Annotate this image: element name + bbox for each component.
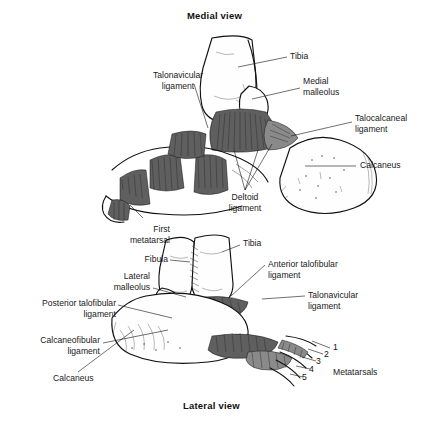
label-lateral-talonavicular-ligament: Talonavicular ligament <box>308 290 358 311</box>
leader-deltoid-b <box>245 150 258 190</box>
medial-view-caption: Medial view <box>187 10 242 21</box>
leader-mt-4 <box>296 366 310 369</box>
leader-mt-1 <box>312 341 330 348</box>
metatarsal-number-5: 5 <box>302 372 307 382</box>
label-medial-calcaneus: Calcaneus <box>360 160 401 171</box>
metatarsal-number-4: 4 <box>309 364 314 374</box>
medial-talonavicular-shape <box>168 131 206 159</box>
label-talocalcaneal-ligament: Talocalcaneal ligament <box>355 113 407 134</box>
label-lateral-malleolus: Lateral malleolus <box>96 271 150 292</box>
label-metatarsals: Metatarsals <box>333 367 377 378</box>
leader-anterior-talofibular <box>231 265 265 296</box>
leader-lateral-talonavicular <box>262 296 305 299</box>
label-fibula: Fibula <box>110 254 168 265</box>
label-medial-malleolus: Medial malleolus <box>303 76 339 97</box>
metatarsal-number-1: 1 <box>333 342 338 352</box>
leader-deltoid-a <box>234 150 245 190</box>
leader-talocalcaneal-ligament <box>291 122 352 136</box>
lateral-view-caption: Lateral view <box>183 400 240 411</box>
label-calcaneofibular-ligament: Calcaneofibular ligament <box>18 335 100 356</box>
label-medial-tibia: Tibia <box>290 51 308 62</box>
label-anterior-talofibular-ligament: Anterior talofibular ligament <box>268 259 338 280</box>
lateral-tibia <box>191 235 234 305</box>
metatarsal-number-3: 3 <box>316 356 321 366</box>
lateral-calcaneus <box>112 293 248 375</box>
metatarsal-number-2: 2 <box>324 349 329 359</box>
lateral-midfoot-band <box>208 333 292 370</box>
anatomy-figure: Medial view Lateral view Tibia Medial ma… <box>0 0 433 430</box>
ankle-ligament-illustration <box>0 0 433 430</box>
label-lateral-tibia: Tibia <box>243 238 261 249</box>
leader-mt-3 <box>302 357 316 361</box>
label-first-metatarsal: First metatarsal <box>108 224 170 245</box>
label-lateral-calcaneus: Calcaneus <box>53 373 94 384</box>
label-medial-talonavicular-ligament: Talonavicular ligament <box>143 70 213 91</box>
label-deltoid-ligament: Deltoid ligament <box>211 192 279 213</box>
leader-mt-2 <box>308 349 323 354</box>
label-posterior-talofibular-ligament: Posterior talofibular ligament <box>18 298 116 319</box>
medial-calcaneus <box>276 137 377 213</box>
